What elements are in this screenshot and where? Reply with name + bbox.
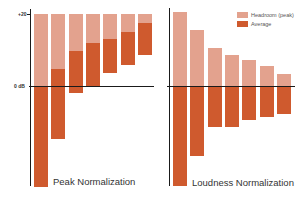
bar-average-segment [208, 86, 222, 127]
legend-label-average: Average [251, 21, 271, 27]
legend-swatch-headroom [237, 12, 248, 18]
left-tick-plus20 [27, 14, 31, 15]
bar-average-segment [34, 86, 48, 187]
bar-average-segment [138, 23, 152, 55]
left-y-axis [30, 9, 31, 186]
bar-average-segment [242, 86, 256, 120]
bar-average-segment [190, 86, 204, 156]
bar-headroom-segment [34, 14, 48, 86]
loudness-normalization-title: Loudness Normalization [192, 177, 294, 188]
bar-headroom-segment [121, 14, 135, 32]
bar-average-segment [86, 43, 100, 86]
bar-headroom-segment [190, 30, 204, 86]
legend-label-headroom: Headroom (peak) [251, 12, 294, 18]
bar-average-segment [51, 69, 65, 139]
peak-normalization-title: Peak Normalization [53, 176, 135, 187]
bar-average-segment [260, 86, 274, 117]
right-y-axis [169, 8, 170, 186]
bar-headroom-segment [260, 66, 274, 86]
y-tick-label-plus20: +20 [18, 11, 26, 17]
bar-average-segment [277, 86, 291, 114]
bar-headroom-segment [138, 14, 152, 23]
bar-headroom-segment [225, 55, 239, 86]
bar-headroom-segment [208, 48, 222, 86]
right-zero-line [167, 86, 295, 87]
bar-average-segment [173, 86, 187, 186]
bar-average-segment [103, 39, 117, 73]
bar-headroom-segment [103, 14, 117, 39]
bar-average-segment [121, 32, 135, 65]
bar-average-segment [225, 86, 239, 127]
y-tick-label-0db: 0 dB [14, 83, 25, 89]
legend-swatch-average [237, 21, 248, 27]
bar-headroom-segment [86, 14, 100, 43]
bar-headroom-segment [242, 60, 256, 86]
bar-headroom-segment [277, 74, 291, 86]
normalization-comparison-chart: +20 0 dB Peak Normalization Loudness Nor… [0, 0, 306, 197]
bar-headroom-segment [69, 14, 83, 51]
left-zero-line [29, 86, 154, 87]
bar-headroom-segment [173, 12, 187, 86]
bar-headroom-segment [51, 14, 65, 69]
